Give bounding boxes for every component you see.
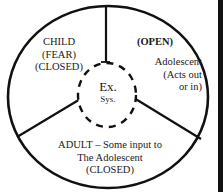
child-line-3: (CLOSED) [30, 61, 88, 74]
adult-line-1: ADULT – Some input to [30, 139, 190, 152]
divider-left [17, 98, 82, 137]
adolescent-line-3: or in) [130, 81, 202, 94]
divider-right [134, 98, 201, 139]
open-heading: (OPEN) [118, 36, 192, 49]
segment-child-label: CHILD (FEAR) (CLOSED) [30, 36, 88, 74]
center-line-2: Sys. [88, 94, 128, 105]
segment-adolescent-label: Adolescent (Acts out or in) [130, 56, 202, 94]
page-edge-bar [218, 0, 223, 192]
adult-line-2: The Adolescent [30, 152, 190, 165]
center-line-1: Ex. [88, 80, 128, 94]
segment-adult-label: ADULT – Some input to The Adolescent (CL… [30, 139, 190, 177]
child-line-2: (FEAR) [30, 49, 88, 62]
adult-line-3: (CLOSED) [30, 164, 190, 177]
center-label: Ex. Sys. [88, 80, 128, 105]
adolescent-line-2: (Acts out [130, 69, 202, 82]
adolescent-line-1: Adolescent [130, 56, 202, 69]
child-line-1: CHILD [30, 36, 88, 49]
segment-open-heading: (OPEN) [118, 36, 192, 49]
